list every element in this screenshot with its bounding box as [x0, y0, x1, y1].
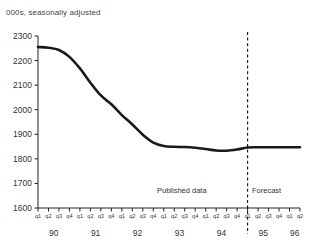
data-series-line — [38, 47, 300, 151]
published-data-label: Published data — [157, 186, 207, 195]
y-axis-tick-label: 2200 — [0, 56, 32, 66]
y-axis-tick-label: 1800 — [0, 154, 32, 164]
y-axis-tick-label: 2100 — [0, 80, 32, 90]
y-axis-tick-label: 1600 — [0, 203, 32, 213]
y-axis-tick-label: 1700 — [0, 178, 32, 188]
axes-group — [38, 36, 300, 208]
chart-container: 000s, seasonally adjusted Published data… — [0, 0, 312, 249]
x-axis-year-label: 90 — [39, 228, 69, 238]
x-axis-year-label: 96 — [280, 228, 310, 238]
x-axis-year-label: 94 — [206, 228, 236, 238]
y-axis-tick-label: 2300 — [0, 31, 32, 41]
x-axis-quarter-label: q2 — [294, 213, 306, 219]
forecast-label: Forecast — [252, 186, 281, 195]
x-axis-year-label: 92 — [123, 228, 153, 238]
x-axis-year-label: 93 — [164, 228, 194, 238]
chart-plot-area — [0, 0, 312, 249]
x-axis-year-label: 91 — [81, 228, 111, 238]
y-axis-tick-label: 1900 — [0, 129, 32, 139]
x-axis-year-label: 95 — [248, 228, 278, 238]
y-axis-tick-label: 2000 — [0, 105, 32, 115]
